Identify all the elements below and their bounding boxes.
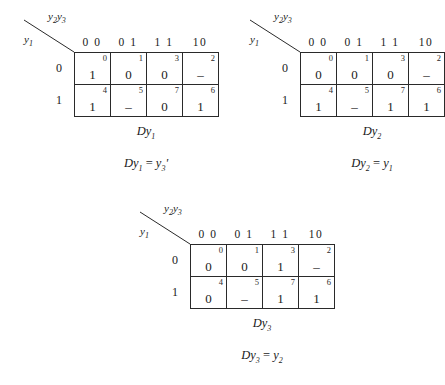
cell-value: 1 [373,100,408,113]
kmap-title-text: Dy [253,316,268,330]
kmap-row: 0 0 1 0 3 0 2 – [301,53,445,85]
cell-value: – [299,260,334,273]
cell-value: – [111,100,146,113]
kmap-cell: 7 1 [263,277,299,309]
kmap-equation-dy2: Dy2 = y1 [270,156,445,173]
kmap-title-dy3: Dy3 [190,316,334,333]
kmap-cell: 0 0 [191,245,227,277]
kmap-cell: 6 1 [183,85,219,117]
row-variable-label: y1 [250,33,259,48]
equation-rhs-prime: ' [165,156,168,170]
kmap-cell: 5 – [337,85,373,117]
cell-minterm-index: 4 [329,85,333,95]
kmap-figure-dy1: y2y3 y1 0 0 0 1 1 1 10 0 1 0 1 1 0 3 0 2 [22,16,74,52]
kmap-cell: 1 0 [227,245,263,277]
column-variable-label: y2y3 [274,10,292,25]
row-variable-label: y1 [24,33,33,48]
cell-minterm-index: 2 [327,245,331,255]
kmap-title-subscript: 3 [267,324,271,333]
cell-value: 0 [147,68,182,81]
equals-sign: = [146,156,153,170]
kmap-cell: 2 – [299,245,335,277]
axis-corner-dy2: y2y3 y1 [248,16,300,52]
cell-value: 0 [227,260,262,273]
column-headers-dy3: 0 0 0 1 1 1 10 [190,228,334,240]
kmap-title-subscript: 2 [377,132,381,141]
kmap-cell: 6 1 [299,277,335,309]
kmap-equation-dy1: Dy1 = y3' [44,156,248,173]
cell-value: – [337,100,372,113]
row-headers-dy1: 0 1 [48,52,70,116]
kmap-title-text: Dy [363,124,378,138]
equation-rhs-subscript: 2 [279,356,283,365]
kmap-grid-dy2: 0 0 1 0 3 0 2 – 4 1 5 – [300,52,445,117]
kmap-cell: 0 0 [301,53,337,85]
cell-minterm-index: 6 [211,85,215,95]
cell-value: 1 [183,100,218,113]
kmap-title-text: Dy [137,124,152,138]
kmap-cell: 3 1 [263,245,299,277]
row-variable-label: y1 [140,225,149,240]
cell-value: 0 [191,260,226,273]
equation-lhs-subscript: 3 [256,356,260,365]
cell-minterm-index: 0 [103,53,107,63]
cell-minterm-index: 2 [437,53,441,63]
equation-lhs: Dy [124,156,139,170]
kmap-row: 0 0 1 0 3 1 2 – [191,245,335,277]
column-header: 0 1 [226,228,262,240]
kmap-cell: 4 0 [191,277,227,309]
column-header: 0 1 [336,36,372,48]
kmap-figure-dy3: y2y3 y1 0 0 0 1 1 1 10 0 1 0 0 1 0 3 1 2 [138,208,190,244]
kmap-cell: 7 0 [147,85,183,117]
cell-minterm-index: 3 [401,53,405,63]
kmap-cell: 0 1 [75,53,111,85]
axis-corner-dy1: y2y3 y1 [22,16,74,52]
column-header: 0 1 [110,36,146,48]
column-header: 1 1 [372,36,408,48]
cell-minterm-index: 3 [175,53,179,63]
cell-value: 0 [111,68,146,81]
kmap-row: 4 1 5 – 7 1 6 1 [301,85,445,117]
cell-minterm-index: 6 [437,85,441,95]
row-header: 0 [48,52,70,84]
cell-minterm-index: 0 [329,53,333,63]
cell-value: 0 [301,68,336,81]
cell-minterm-index: 3 [291,245,295,255]
row-header: 0 [164,244,186,276]
row-header: 0 [274,52,296,84]
equation-lhs: Dy [241,348,256,362]
column-header: 0 0 [74,36,110,48]
equation-lhs: Dy [351,156,366,170]
kmap-cell: 1 0 [111,53,147,85]
cell-value: 0 [337,68,372,81]
kmap-grid-dy3: 0 0 1 0 3 1 2 – 4 0 5 – [190,244,335,309]
column-header: 1 1 [146,36,182,48]
kmap-cell: 7 1 [373,85,409,117]
cell-minterm-index: 4 [103,85,107,95]
cell-minterm-index: 7 [175,85,179,95]
kmap-cell: 4 1 [301,85,337,117]
cell-minterm-index: 4 [219,277,223,287]
kmap-cell: 3 0 [373,53,409,85]
cell-value: 1 [75,100,110,113]
kmap-cell: 2 – [183,53,219,85]
equals-sign: = [263,348,270,362]
cell-minterm-index: 7 [401,85,405,95]
equation-lhs-subscript: 1 [139,164,143,173]
kmap-cell: 2 – [409,53,445,85]
cell-value: – [409,68,444,81]
cell-value: 1 [263,292,298,305]
kmap-title-dy1: Dy1 [74,124,218,141]
cell-minterm-index: 5 [139,85,143,95]
cell-value: 0 [373,68,408,81]
column-variable-label: y2y3 [164,202,182,217]
equals-sign: = [373,156,380,170]
cell-value: 1 [409,100,444,113]
kmap-row: 4 1 5 – 7 0 6 1 [75,85,219,117]
kmap-grid-dy1: 0 1 1 0 3 0 2 – 4 1 5 – [74,52,219,117]
kmap-cell: 3 0 [147,53,183,85]
column-header: 0 0 [300,36,336,48]
column-headers-dy2: 0 0 0 1 1 1 10 [300,36,444,48]
column-headers-dy1: 0 0 0 1 1 1 10 [74,36,218,48]
cell-value: – [227,292,262,305]
